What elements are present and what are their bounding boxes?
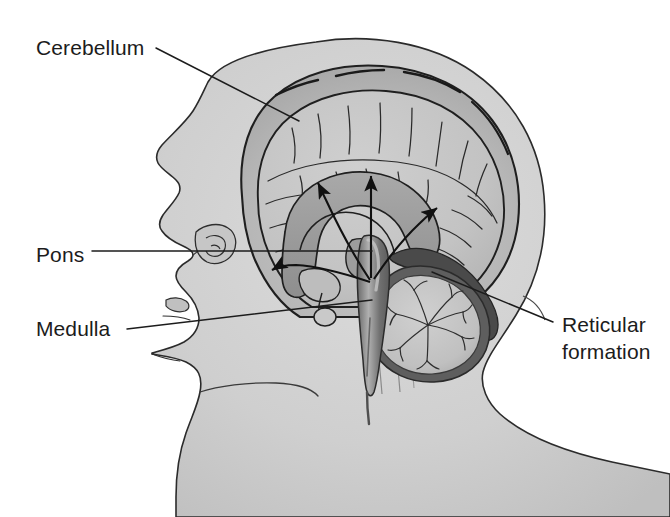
label-medulla: Medulla bbox=[36, 317, 110, 340]
label-reticular-formation-line1: Reticular bbox=[562, 313, 646, 336]
diagram-svg: Cerebellum Pons Medulla Reticular format… bbox=[0, 0, 670, 517]
ear-outline bbox=[195, 225, 236, 264]
label-reticular-formation-line2: formation bbox=[562, 340, 650, 363]
ear bbox=[195, 225, 236, 264]
label-cerebellum: Cerebellum bbox=[36, 36, 144, 59]
label-pons: Pons bbox=[36, 243, 84, 266]
pituitary-gland bbox=[314, 308, 336, 326]
brain-diagram-figure: Cerebellum Pons Medulla Reticular format… bbox=[0, 0, 670, 517]
